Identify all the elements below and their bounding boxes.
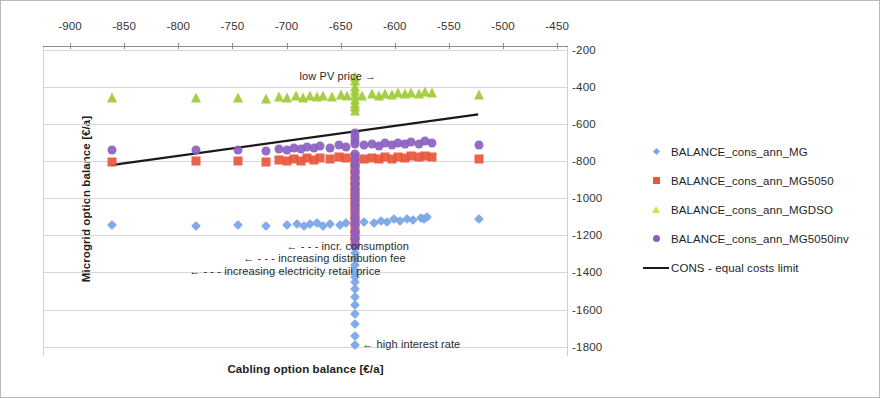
legend-item[interactable]: BALANCE_cons_ann_MG xyxy=(641,137,876,166)
legend-marker-square-icon xyxy=(641,177,671,184)
x-axis-tick-label: -850 xyxy=(112,20,136,32)
legend-item[interactable]: BALANCE_cons_ann_MGDSO xyxy=(641,195,876,224)
x-axis-tick-label: -800 xyxy=(166,20,190,32)
legend-label: CONS - equal costs limit xyxy=(671,262,799,274)
chart-figure: Microgrid option balance [€/a] Cabling o… xyxy=(0,0,880,398)
equal-costs-limit-line xyxy=(43,46,568,356)
x-axis-tick-label: -500 xyxy=(491,20,515,32)
x-axis-tick-label: -550 xyxy=(437,20,461,32)
x-axis-tick-label: -900 xyxy=(58,20,82,32)
y-axis-tick-label: -1400 xyxy=(572,266,602,278)
y-axis-tick-label: -800 xyxy=(572,155,596,167)
annotation-low-pv-price: low PV price → xyxy=(300,70,377,82)
legend-item[interactable]: CONS - equal costs limit xyxy=(641,253,876,282)
legend-marker-diamond-icon xyxy=(641,149,671,154)
y-axis-tick-label: -1200 xyxy=(572,229,602,241)
x-axis-tick-label: -750 xyxy=(221,20,245,32)
legend-item[interactable]: BALANCE_cons_ann_MG5050 xyxy=(641,166,876,195)
y-axis-tick-label: -200 xyxy=(572,44,596,56)
annotation-increasing-electricity-retail-price: ← - - - increasing electricity retail pr… xyxy=(189,265,380,277)
x-axis-tick-label: -700 xyxy=(275,20,299,32)
x-axis-title: Cabling option balance [€/a] xyxy=(43,363,568,375)
annotation-incr-consumption: ← - - - incr. consumption xyxy=(287,240,409,252)
legend-label: BALANCE_cons_ann_MGDSO xyxy=(671,204,833,216)
chart-legend: BALANCE_cons_ann_MGBALANCE_cons_ann_MG50… xyxy=(641,137,876,282)
y-axis-tick-label: -1600 xyxy=(572,304,602,316)
y-axis-tick-label: -1800 xyxy=(572,341,602,353)
annotation-high-interest-rate: ← high interest rate xyxy=(362,338,460,350)
legend-label: BALANCE_cons_ann_MG5050 xyxy=(671,175,834,187)
y-axis-tick-label: -1000 xyxy=(572,192,602,204)
x-axis-tick-label: -650 xyxy=(329,20,353,32)
y-axis-tick-label: -600 xyxy=(572,118,596,130)
y-axis-tick-label: -400 xyxy=(572,81,596,93)
legend-item[interactable]: BALANCE_cons_ann_MG5050inv xyxy=(641,224,876,253)
legend-label: BALANCE_cons_ann_MG xyxy=(671,146,808,158)
annotation-increasing-distribution-fee: ← - - - increasing distribution fee xyxy=(243,252,405,264)
legend-marker-triangle-icon xyxy=(641,206,671,213)
legend-marker-circle-icon xyxy=(641,235,671,242)
legend-marker-line-icon xyxy=(641,267,671,269)
x-axis-tick-label: -450 xyxy=(545,20,569,32)
x-axis-tick-label: -600 xyxy=(383,20,407,32)
plot-area: -900-850-800-750-700-650-600-550-500-450… xyxy=(43,46,568,356)
legend-label: BALANCE_cons_ann_MG5050inv xyxy=(671,233,849,245)
